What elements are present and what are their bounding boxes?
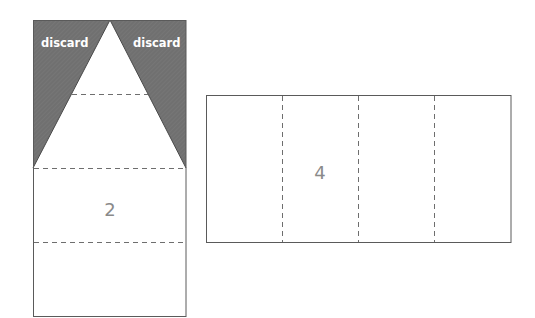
- right-panel: 4: [207, 96, 512, 243]
- left-panel: discard discard 2: [33, 20, 186, 317]
- section-number-2: 2: [104, 199, 115, 220]
- folding-template-diagram: discard discard 2 4: [0, 0, 535, 318]
- discard-label-right: discard: [133, 36, 181, 50]
- section-number-4: 4: [314, 162, 325, 183]
- discard-label-left: discard: [41, 36, 89, 50]
